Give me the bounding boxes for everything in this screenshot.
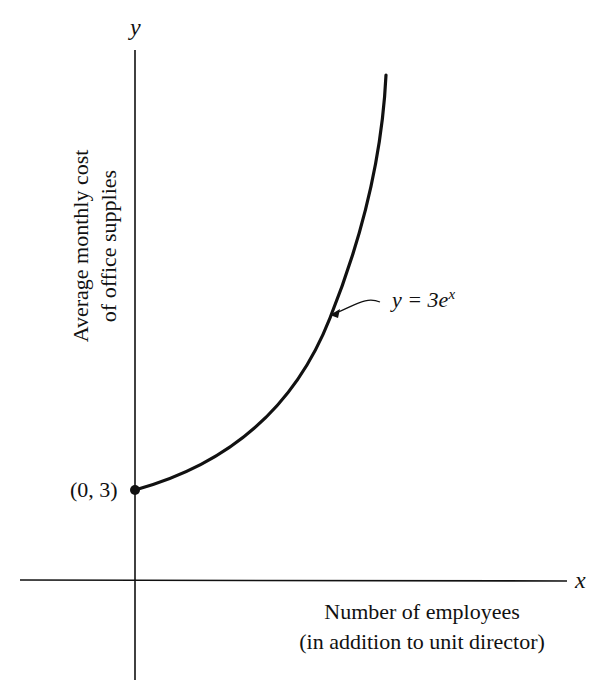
equation-text: y = 3e bbox=[392, 287, 448, 312]
x-axis bbox=[20, 580, 567, 581]
y-axis-label-line1: Average monthly cost bbox=[67, 81, 95, 411]
y-axis-label-line2: of office supplies bbox=[95, 81, 123, 411]
equation-exponent: x bbox=[448, 286, 455, 302]
y-axis-symbol: y bbox=[130, 14, 141, 42]
x-axis-symbol: x bbox=[575, 567, 586, 595]
y-axis-label: Average monthly cost of office supplies bbox=[67, 81, 123, 411]
label-arrow bbox=[333, 300, 380, 314]
equation-label: y = 3ex bbox=[392, 286, 455, 313]
intercept-point bbox=[130, 485, 140, 495]
x-axis-label: Number of employees (in addition to unit… bbox=[252, 597, 592, 657]
intercept-label: (0, 3) bbox=[70, 477, 118, 502]
x-axis-label-line1: Number of employees bbox=[252, 597, 592, 627]
exponential-curve bbox=[135, 75, 386, 490]
x-axis-label-line2: (in addition to unit director) bbox=[252, 627, 592, 657]
